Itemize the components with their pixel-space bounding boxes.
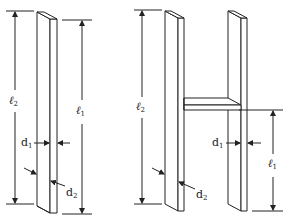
- right-d2-label: d2: [196, 189, 208, 202]
- left-d2-label: d2: [66, 187, 78, 200]
- left-d1-label: d1: [21, 137, 33, 150]
- left-l1-label: ℓ1: [76, 105, 85, 118]
- right-right-bar: [228, 11, 247, 211]
- right-left-bar: [165, 11, 184, 211]
- right-l1-label: ℓ1: [268, 158, 277, 171]
- right-d1-label: d1: [212, 137, 224, 150]
- right-l2-label: ℓ2: [136, 101, 145, 114]
- left-l2-label: ℓ2: [9, 95, 18, 108]
- left-bar: [37, 12, 57, 213]
